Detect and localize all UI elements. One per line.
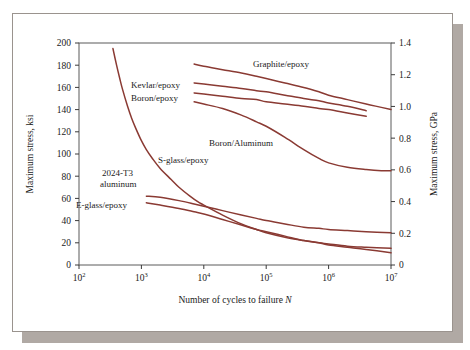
x-tick-label: 105	[260, 271, 273, 283]
chart-figure: 02040608010012014016018020000.20.40.60.8…	[13, 14, 454, 333]
x-tick-label: 103	[135, 271, 148, 283]
curve-label-s-glass-epoxy: S-glass/epoxy	[158, 155, 209, 165]
x-axis-title: Number of cycles to failure N	[178, 295, 292, 305]
y-tick-label-left: 100	[57, 149, 72, 159]
y-tick-label-left: 180	[57, 61, 72, 71]
y-axis-title-left: Maximum stress, ksi	[25, 114, 35, 193]
curve-label-boron-aluminum: Boron/Aluminum	[209, 138, 273, 148]
y-tick-label-right: 1.2	[399, 70, 411, 80]
curve-kevlar-epoxy	[194, 83, 366, 111]
curve-label-2024-t3: 2024-T3	[102, 168, 133, 178]
y-tick-label-left: 140	[57, 105, 72, 115]
screenshot-root: 02040608010012014016018020000.20.40.60.8…	[0, 0, 470, 350]
y-tick-label-left: 120	[57, 127, 72, 137]
y-axis-title-right: Maximum stress, GPa	[429, 111, 439, 196]
curve-label-kevlar-epoxy: Kevlar/epoxy	[131, 80, 180, 90]
y-tick-label-left: 40	[62, 216, 72, 226]
y-tick-label-right: 1.4	[399, 38, 411, 48]
curve-s-glass-epoxy	[146, 196, 391, 233]
curve-label-e-glass-epoxy: E-glass/epoxy	[76, 200, 127, 210]
curve-boron-aluminum	[194, 102, 391, 171]
y-tick-label-right: 0.2	[399, 229, 411, 239]
y-tick-label-left: 80	[62, 172, 72, 182]
curve-label-aluminum: aluminum	[100, 179, 137, 189]
figure-page: 02040608010012014016018020000.20.40.60.8…	[12, 13, 453, 332]
curve-label-graphite-epoxy: Graphite/epoxy	[253, 59, 309, 69]
y-tick-label-left: 20	[62, 238, 72, 248]
x-tick-label: 107	[385, 271, 399, 283]
sn-fatigue-chart: 02040608010012014016018020000.20.40.60.8…	[13, 14, 454, 333]
y-tick-label-right: 0.6	[399, 165, 411, 175]
y-tick-label-left: 0	[66, 260, 71, 270]
y-tick-label-left: 200	[57, 38, 72, 48]
x-tick-label: 102	[73, 271, 86, 283]
y-tick-label-left: 160	[57, 83, 72, 93]
plot-frame	[79, 43, 391, 265]
y-tick-label-right: 0.8	[399, 134, 411, 144]
y-tick-label-right: 1.0	[399, 102, 411, 112]
x-tick-label: 106	[322, 271, 336, 283]
y-tick-label-left: 60	[62, 194, 72, 204]
curve-e-glass-epoxy	[146, 203, 391, 253]
x-tick-label: 104	[197, 271, 211, 283]
curve-2024-t3-aluminum	[113, 49, 391, 249]
y-tick-label-right: 0	[399, 260, 404, 270]
y-tick-label-right: 0.4	[399, 197, 411, 207]
curve-label-boron-epoxy: Boron/epoxy	[131, 93, 178, 103]
